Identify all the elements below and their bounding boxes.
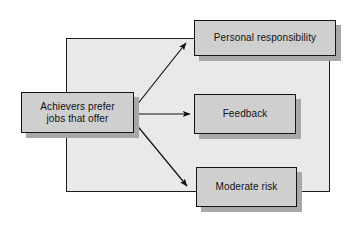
node-moderate-risk[interactable]: Moderate risk xyxy=(196,167,297,207)
diagram-canvas: Personal responsibility Feedback Moderat… xyxy=(0,0,355,227)
node-personal-responsibility-label: Personal responsibility xyxy=(210,32,320,44)
node-personal-responsibility[interactable]: Personal responsibility xyxy=(194,20,336,56)
node-achievers-prefer-label: Achievers prefer jobs that offer xyxy=(36,101,118,125)
node-achievers-prefer[interactable]: Achievers prefer jobs that offer xyxy=(21,92,134,133)
node-feedback[interactable]: Feedback xyxy=(194,94,296,134)
node-moderate-risk-label: Moderate risk xyxy=(212,181,282,193)
node-feedback-label: Feedback xyxy=(219,108,272,120)
